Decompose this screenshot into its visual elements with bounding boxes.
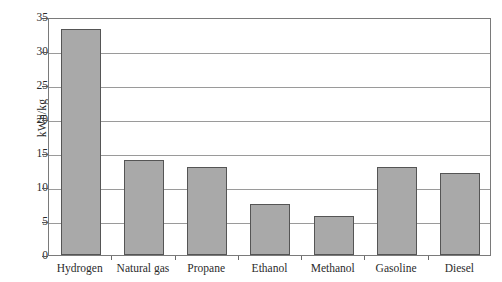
x-axis-category-label: Propane — [187, 258, 225, 278]
bar[interactable] — [314, 216, 354, 255]
x-axis-category-label: Diesel — [445, 258, 474, 278]
x-axis-category-label: Natural gas — [117, 258, 170, 278]
x-axis-category-label: Methanol — [311, 258, 355, 278]
x-axis-category-label: Gasoline — [376, 258, 417, 278]
bar-slot — [49, 19, 112, 255]
bar-series — [49, 19, 490, 255]
bar[interactable] — [250, 204, 290, 255]
bar[interactable] — [187, 167, 227, 255]
bar-slot — [176, 19, 239, 255]
bar-slot — [302, 19, 365, 255]
x-axis-category-label: Hydrogen — [57, 258, 103, 278]
bar-slot — [239, 19, 302, 255]
bar[interactable] — [440, 173, 480, 255]
bar[interactable] — [124, 160, 164, 255]
x-axis-category-label: Ethanol — [252, 258, 288, 278]
bar[interactable] — [61, 29, 101, 255]
bar-slot — [112, 19, 175, 255]
y-axis-tick-group: 05101520253035 — [0, 18, 48, 256]
bar-chart: kWh/kg 05101520253035 HydrogenNatural ga… — [0, 0, 502, 282]
bar-slot — [365, 19, 428, 255]
plot-area — [48, 18, 491, 256]
bar-slot — [429, 19, 492, 255]
bar[interactable] — [377, 167, 417, 255]
x-axis-label-group: HydrogenNatural gasPropaneEthanolMethano… — [48, 258, 491, 280]
